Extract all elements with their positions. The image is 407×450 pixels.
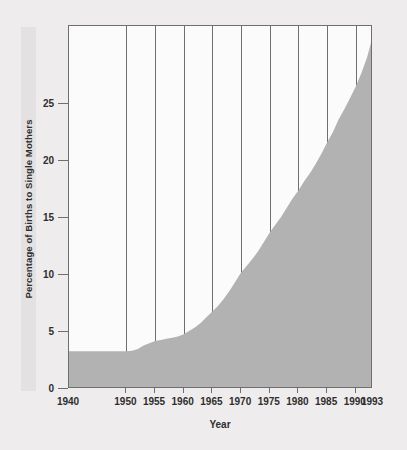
y-axis-label-band: Percentage of Births to Single Mothers (21, 27, 36, 391)
y-tick-label-15: 15 (8, 211, 54, 222)
y-tick-label-25: 25 (8, 97, 54, 108)
chart-figure: Percentage of Births to Single Mothers Y… (0, 0, 407, 450)
x-tick-label-1940: 1940 (57, 396, 79, 407)
y-tick-20 (58, 160, 68, 161)
x-tick-1990 (355, 388, 356, 393)
x-tick-1955 (154, 388, 155, 393)
y-tick-15 (58, 217, 68, 218)
x-tick-1985 (326, 388, 327, 393)
x-tick-label-1970: 1970 (229, 396, 251, 407)
y-tick-10 (58, 274, 68, 275)
x-tick-label-1993: 1993 (361, 396, 383, 407)
plot-area (68, 25, 372, 388)
x-tick-label-1980: 1980 (286, 396, 308, 407)
area-fill (69, 35, 371, 387)
x-tick-label-1950: 1950 (114, 396, 136, 407)
y-axis-label: Percentage of Births to Single Mothers (21, 27, 36, 391)
y-tick-5 (58, 331, 68, 332)
y-tick-0 (58, 388, 68, 389)
y-tick-label-10: 10 (8, 268, 54, 279)
x-tick-label-1955: 1955 (143, 396, 165, 407)
x-tick-1965 (211, 388, 212, 393)
x-tick-label-1965: 1965 (200, 396, 222, 407)
x-tick-1970 (240, 388, 241, 393)
y-tick-label-20: 20 (8, 154, 54, 165)
x-tick-1975 (269, 388, 270, 393)
x-tick-label-1975: 1975 (258, 396, 280, 407)
x-tick-label-1985: 1985 (315, 396, 337, 407)
x-tick-1980 (297, 388, 298, 393)
area-series (69, 26, 371, 387)
y-tick-25 (58, 103, 68, 104)
y-tick-label-5: 5 (8, 325, 54, 336)
x-tick-1950 (125, 388, 126, 393)
x-tick-1960 (183, 388, 184, 393)
x-axis-label: Year (68, 419, 372, 430)
x-tick-label-1960: 1960 (172, 396, 194, 407)
y-tick-label-0: 0 (8, 383, 54, 394)
